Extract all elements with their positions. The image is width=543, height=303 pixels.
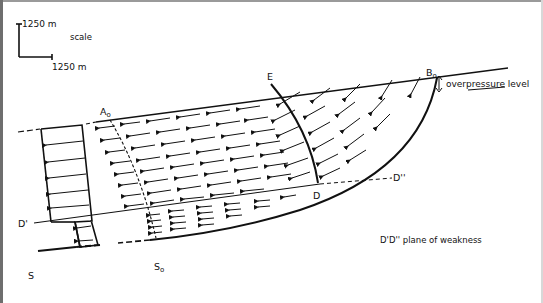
- overpressure-label: overpressure level: [446, 79, 529, 89]
- scale-horizontal-label: 1250 m: [52, 62, 87, 72]
- overpressure-level: overpressure level: [436, 76, 529, 92]
- pressure-diagram: [41, 125, 98, 247]
- scale-vertical-label: 1250 m: [22, 19, 57, 29]
- label-D-prime: D': [18, 218, 28, 229]
- scale-bar: 1250 m 1250 m scale: [16, 19, 92, 72]
- label-S: S: [28, 270, 34, 281]
- label-E: E: [267, 71, 273, 82]
- line-AoSo: [110, 120, 156, 238]
- scale-title: scale: [70, 32, 92, 42]
- label-So: So: [154, 261, 164, 274]
- diagram-frame: 1250 m 1250 m scale overpressure level: [0, 0, 543, 303]
- label-D: D: [313, 190, 320, 201]
- weakness-plane-label: D'D'' plane of weakness: [380, 235, 482, 245]
- line-ED: [271, 84, 318, 183]
- label-D-double-prime: D'': [393, 172, 406, 183]
- slope-stability-diagram: 1250 m 1250 m scale overpressure level: [0, 0, 543, 303]
- label-Ao: Ao: [100, 106, 111, 119]
